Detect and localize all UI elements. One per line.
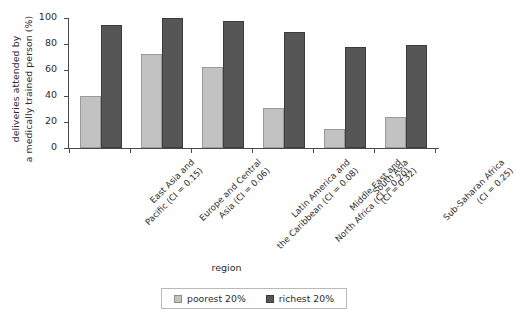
legend-label-richest: richest 20% (279, 293, 334, 304)
y-tick-40: 40 (64, 96, 68, 97)
x-tick-2 (191, 149, 192, 153)
legend-swatch-richest-icon (266, 295, 274, 303)
x-tick-6 (435, 149, 436, 153)
y-tick-label-100: 100 (31, 11, 57, 22)
chart-legend: poorest 20% richest 20% (161, 288, 347, 309)
legend-item-richest[interactable]: richest 20% (266, 293, 334, 304)
y-tick-label-80: 80 (31, 37, 57, 48)
x-tick-5 (374, 149, 375, 153)
bar-poorest-sub-saharan-africa (385, 117, 406, 148)
bar-richest-middle-east-and-north-africa (284, 32, 305, 148)
bar-group-europe-and-central-asia (141, 18, 185, 148)
bar-richest-latin-america-and-the-caribbean (223, 21, 244, 148)
bar-group-middle-east-and-north-africa (263, 18, 307, 148)
x-tick-label-europe-and-central-asia: Europe and Central Asia (CI = 0.06) (197, 157, 272, 232)
legend-item-poorest[interactable]: poorest 20% (174, 293, 246, 304)
y-tick-20: 20 (64, 122, 68, 123)
x-axis-title: region (0, 262, 453, 273)
x-tick-3 (252, 149, 253, 153)
x-tick-4 (313, 149, 314, 153)
y-tick-label-20: 20 (31, 115, 57, 126)
y-tick-label-60: 60 (31, 63, 57, 74)
x-tick-0 (69, 149, 70, 153)
y-axis-line (68, 18, 69, 149)
y-axis-title-line1: deliveries attended by (10, 36, 21, 143)
legend-swatch-poorest-icon (174, 295, 182, 303)
x-tick-1 (130, 149, 131, 153)
bar-richest-europe-and-central-asia (162, 18, 183, 148)
y-tick-label-40: 40 (31, 89, 57, 100)
bar-poorest-middle-east-and-north-africa (263, 108, 284, 148)
x-axis-line (68, 148, 439, 149)
x-tick-label-east-asia-and-pacific: East Asia and Pacific (CI = 0.15) (135, 157, 206, 228)
bar-group-east-asia-and-pacific (80, 18, 124, 148)
y-tick-label-0: 0 (31, 141, 57, 152)
bar-group-sub-saharan-africa (385, 18, 429, 148)
bar-poorest-latin-america-and-the-caribbean (202, 67, 223, 148)
plot-area: 0 20 40 60 80 100 (68, 18, 438, 148)
bar-richest-south-asia (345, 47, 366, 148)
bar-group-latin-america-and-the-caribbean (202, 18, 246, 148)
bar-group-south-asia (324, 18, 368, 148)
legend-label-poorest: poorest 20% (187, 293, 246, 304)
y-tick-60: 60 (64, 70, 68, 71)
x-tick-label-sub-saharan-africa: Sub-Saharan Africa (CI = 0.25) (441, 157, 516, 232)
y-tick-100: 100 (64, 18, 68, 19)
y-tick-0: 0 (64, 148, 68, 149)
bar-poorest-east-asia-and-pacific (80, 96, 101, 148)
y-tick-80: 80 (64, 44, 68, 45)
bar-richest-sub-saharan-africa (406, 45, 427, 148)
bar-richest-east-asia-and-pacific (101, 25, 122, 149)
bar-poorest-south-asia (324, 129, 345, 149)
bar-poorest-europe-and-central-asia (141, 54, 162, 148)
